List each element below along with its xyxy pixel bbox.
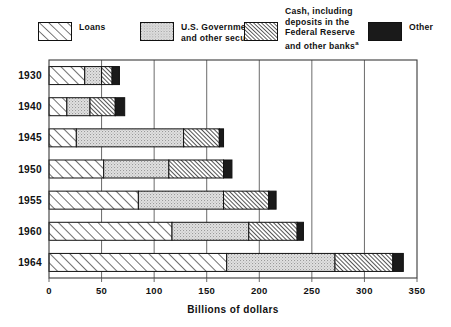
legend-item-other: Other xyxy=(368,22,433,41)
bar-segment xyxy=(184,129,220,147)
x-tick-label: 50 xyxy=(96,285,107,296)
legend-label-cash: Cash, including deposits in the Federal … xyxy=(285,6,359,51)
bar-segment xyxy=(49,191,138,209)
bar-segment xyxy=(104,160,169,178)
bar-segment xyxy=(335,253,393,271)
legend-swatch-cash-icon xyxy=(244,22,278,41)
x-tick-label: 150 xyxy=(198,285,215,296)
bar-group xyxy=(49,191,276,209)
year-axis-label: 1960 xyxy=(18,226,42,237)
x-tick-label: 100 xyxy=(146,285,163,296)
bar-segment xyxy=(249,222,297,240)
bar-segment xyxy=(115,98,124,116)
bar-segment xyxy=(102,67,113,85)
legend-item-cash: Cash, including deposits in the Federal … xyxy=(244,6,359,51)
bar-segment xyxy=(219,129,223,147)
bar-group xyxy=(49,160,232,178)
x-tick-label: 0 xyxy=(46,285,52,296)
legend-label-other: Other xyxy=(409,22,433,33)
year-axis-label: 1945 xyxy=(18,132,42,143)
legend-label-cash-text: Cash, including deposits in the Federal … xyxy=(285,6,355,51)
legend-swatch-loans-icon xyxy=(38,22,72,41)
bar-segment xyxy=(224,160,232,178)
bar-group xyxy=(49,129,224,147)
bar-group xyxy=(49,98,125,116)
bar-segment xyxy=(393,253,404,271)
year-axis-label: 1964 xyxy=(18,257,42,268)
bar-segment xyxy=(49,222,172,240)
bar-segment xyxy=(49,98,67,116)
legend-swatch-other-icon xyxy=(368,22,402,41)
bar-segment xyxy=(269,191,276,209)
year-axis: 1930194019451950195519601964 xyxy=(18,70,42,268)
legend-label-loans: Loans xyxy=(79,22,106,33)
x-axis-ticks: 050100150200250300350 xyxy=(46,278,425,296)
bar-series xyxy=(49,67,403,272)
bar-segment xyxy=(112,67,119,85)
bar-segment xyxy=(49,67,85,85)
year-axis-label: 1940 xyxy=(18,101,42,112)
bar-segment xyxy=(85,67,102,85)
year-axis-label: 1930 xyxy=(18,70,42,81)
chart-plot-area: 1930194019451950195519601964 05010015020… xyxy=(0,56,451,327)
bar-group xyxy=(49,253,403,271)
bar-segment xyxy=(297,222,303,240)
x-tick-label: 300 xyxy=(356,285,373,296)
year-axis-label: 1950 xyxy=(18,164,42,175)
bar-group xyxy=(49,222,303,240)
bar-segment xyxy=(224,191,269,209)
bar-segment xyxy=(67,98,90,116)
legend-footnote-marker: a xyxy=(355,40,359,46)
bar-group xyxy=(49,67,119,85)
legend-item-loans: Loans xyxy=(38,22,106,41)
x-tick-label: 350 xyxy=(409,285,426,296)
bar-segment xyxy=(227,253,335,271)
x-tick-label: 200 xyxy=(251,285,268,296)
bar-segment xyxy=(90,98,115,116)
chart-legend: Loans U.S. Government and other securiti… xyxy=(0,0,451,58)
bar-segment xyxy=(172,222,249,240)
x-axis-title-text: Billions of dollars xyxy=(187,304,279,315)
x-tick-label: 250 xyxy=(303,285,320,296)
x-axis-title: Billions of dollars xyxy=(187,304,279,315)
bar-segment xyxy=(169,160,224,178)
bar-segment xyxy=(76,129,183,147)
bar-segment xyxy=(49,160,104,178)
year-axis-label: 1955 xyxy=(18,195,42,206)
bar-segment xyxy=(49,253,227,271)
legend-swatch-government-icon xyxy=(140,22,174,41)
bar-segment xyxy=(49,129,76,147)
bar-segment xyxy=(138,191,223,209)
stacked-bar-chart: 1930194019451950195519601964 05010015020… xyxy=(0,56,451,327)
